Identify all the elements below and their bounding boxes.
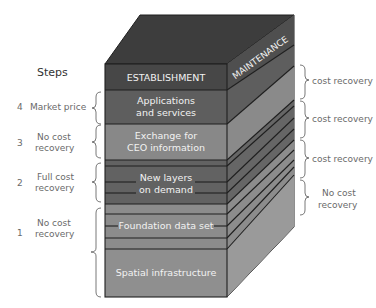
step-4-line1: Market price bbox=[30, 102, 87, 112]
step-2-number: 2 bbox=[17, 178, 23, 188]
step-3-line1: No cost bbox=[37, 132, 71, 142]
steps-title: Steps bbox=[37, 66, 68, 79]
step-2-line1: Full cost bbox=[37, 172, 74, 182]
step-1-line2: recovery bbox=[35, 229, 75, 239]
step-3-line2: recovery bbox=[35, 143, 75, 153]
label-applications-line1: Applications bbox=[137, 95, 195, 106]
left-brace-step-2 bbox=[92, 163, 101, 202]
right-label-3: cost recovery bbox=[312, 154, 374, 164]
right-brace-3 bbox=[300, 140, 309, 178]
label-establishment: ESTABLISHMENT bbox=[127, 72, 206, 83]
label-newlayers-line1: New layers bbox=[140, 172, 193, 183]
label-spatial: Spatial infrastructure bbox=[116, 267, 217, 278]
step-4-number: 4 bbox=[17, 102, 23, 112]
step-3-number: 3 bbox=[17, 138, 23, 148]
left-brace-step-4 bbox=[92, 92, 101, 124]
spatial-data-cube-diagram: MAINTENANCE ESTABLISHMENT Applications a… bbox=[0, 0, 376, 308]
step-1-line1: No cost bbox=[37, 218, 71, 228]
right-label-1: cost recovery bbox=[312, 76, 374, 86]
label-foundation: Foundation data set bbox=[119, 220, 214, 231]
label-exchange-line1: Exchange for bbox=[135, 130, 198, 141]
left-brace-step-1 bbox=[91, 208, 101, 297]
right-brace-4 bbox=[300, 180, 309, 215]
label-newlayers-line2: on demand bbox=[139, 184, 193, 195]
right-brace-2 bbox=[300, 101, 309, 138]
step-2-line2: recovery bbox=[35, 183, 75, 193]
right-label-4-line2: recovery bbox=[318, 200, 358, 210]
label-exchange-line2: CEO information bbox=[127, 142, 205, 153]
label-applications-line2: and services bbox=[136, 107, 196, 118]
right-label-2: cost recovery bbox=[312, 114, 374, 124]
right-brace-1 bbox=[300, 65, 309, 99]
step-1-number: 1 bbox=[17, 228, 23, 238]
left-brace-step-3 bbox=[92, 125, 101, 158]
right-label-4-line1: No cost bbox=[322, 188, 356, 198]
